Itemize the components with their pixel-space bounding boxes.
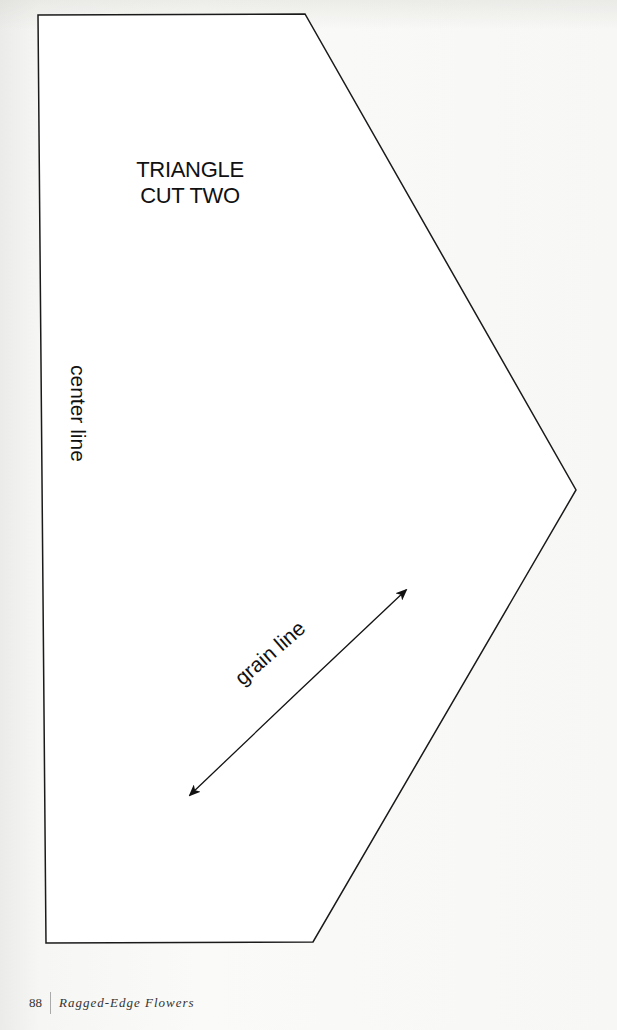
pattern-title: TRIANGLE CUT TWO [110, 157, 270, 209]
pattern-piece [0, 0, 617, 1030]
pattern-title-line2: CUT TWO [110, 183, 270, 209]
book-title: Ragged-Edge Flowers [59, 995, 195, 1011]
center-line-label: center line [66, 365, 90, 462]
footer-divider [50, 992, 51, 1014]
page-footer: 88 Ragged-Edge Flowers [29, 992, 195, 1014]
page-number: 88 [29, 995, 50, 1011]
pattern-outline [38, 14, 576, 943]
pattern-title-line1: TRIANGLE [110, 157, 270, 183]
